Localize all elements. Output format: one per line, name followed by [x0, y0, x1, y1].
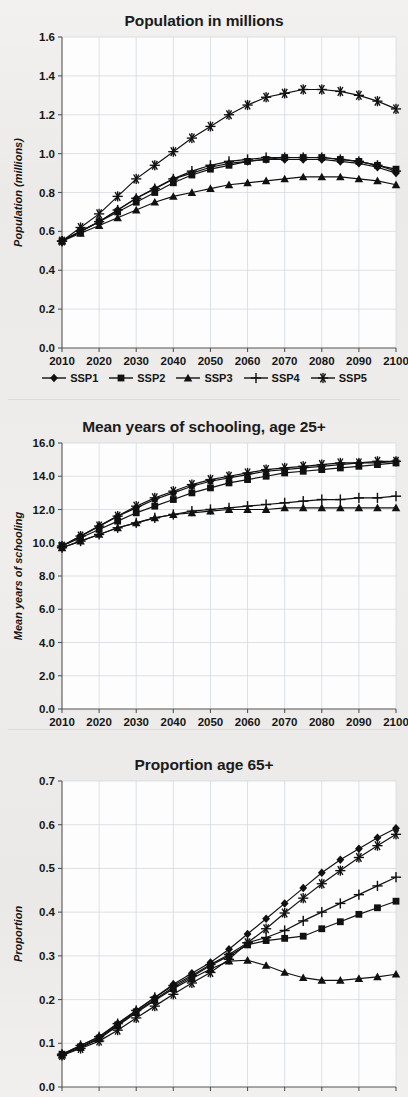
x-tick-label: 2060	[235, 716, 261, 728]
y-tick-label: 0.2	[39, 994, 55, 1006]
plot-area	[62, 781, 396, 1087]
chart-title-schooling: Mean years of schooling, age 25+	[0, 400, 408, 435]
legend-label: SSP1	[70, 372, 98, 384]
legend-marker-triangle-icon	[175, 371, 201, 385]
chart-panel-schooling: Mean years of schooling, age 25+ 0.02.04…	[0, 400, 408, 730]
x-tick-label: 2010	[49, 716, 75, 728]
marker-square	[318, 925, 325, 932]
y-tick-label: 6.0	[39, 603, 55, 615]
marker-plus	[250, 373, 260, 383]
marker-square	[207, 485, 214, 492]
y-tick-label: 1.2	[39, 109, 55, 121]
y-tick-label: 0.6	[39, 225, 55, 237]
x-tick-label: 2080	[309, 716, 335, 728]
marker-diamond	[50, 374, 58, 383]
chart-title-proportion: Proportion age 65+	[0, 730, 408, 773]
legend-marker-asterisk-icon	[310, 371, 336, 385]
y-tick-label: 0.2	[39, 303, 55, 315]
x-tick-label: 2040	[161, 716, 187, 728]
y-tick-label: 1.0	[39, 148, 55, 160]
chart-canvas-proportion: 0.00.10.20.30.40.50.60.7Proportion	[0, 773, 408, 1095]
legend-item-ssp1[interactable]: SSP1	[41, 371, 98, 385]
y-tick-label: 0.8	[39, 187, 56, 199]
legend-item-ssp5[interactable]: SSP5	[310, 371, 367, 385]
marker-square	[300, 933, 307, 940]
y-tick-label: 14.0	[33, 470, 55, 482]
y-tick-label: 0.4	[39, 906, 56, 918]
chart-title-population: Population in millions	[0, 0, 408, 29]
y-tick-label: 0.0	[39, 703, 55, 715]
y-tick-label: 16.0	[33, 437, 55, 449]
chart-svg-population: 0.00.20.40.60.81.01.21.41.62010202020302…	[0, 29, 408, 374]
legend-item-ssp4[interactable]: SSP4	[243, 371, 300, 385]
legend-marker-plus-icon	[243, 371, 269, 385]
marker-square	[188, 490, 195, 497]
y-axis-title: Mean years of schooling	[12, 512, 24, 641]
marker-square	[337, 918, 344, 925]
chart-panel-population: Population in millions 0.00.20.40.60.81.…	[0, 0, 408, 400]
chart-canvas-population: 0.00.20.40.60.81.01.21.41.62010202020302…	[0, 29, 408, 374]
marker-square	[151, 503, 158, 510]
legend-marker-square-icon	[108, 371, 134, 385]
legend-label: SSP3	[204, 372, 232, 384]
y-tick-label: 0.7	[39, 775, 55, 787]
marker-square	[170, 496, 177, 503]
y-tick-label: 10.0	[33, 537, 55, 549]
x-tick-label: 2020	[86, 716, 112, 728]
marker-square	[355, 911, 362, 918]
x-tick-label: 2070	[272, 716, 298, 728]
y-tick-label: 0.0	[39, 1081, 55, 1093]
legend-item-ssp3[interactable]: SSP3	[175, 371, 232, 385]
chart-svg-schooling: 0.02.04.06.08.010.012.014.016.0201020202…	[0, 435, 408, 735]
y-tick-label: 1.4	[39, 70, 56, 82]
marker-asterisk	[318, 373, 328, 383]
y-tick-label: 0.3	[39, 950, 55, 962]
marker-square	[374, 904, 381, 911]
y-tick-label: 0.1	[39, 1037, 56, 1049]
chart-canvas-schooling: 0.02.04.06.08.010.012.014.016.0201020202…	[0, 435, 408, 735]
marker-square	[393, 898, 400, 905]
legend-label: SSP5	[339, 372, 367, 384]
x-tick-label: 2050	[198, 716, 224, 728]
x-tick-label: 2090	[346, 716, 372, 728]
marker-square	[118, 375, 125, 382]
y-tick-label: 12.0	[33, 504, 55, 516]
y-tick-label: 0.6	[39, 819, 55, 831]
marker-square	[281, 935, 288, 942]
legend-marker-diamond-icon	[41, 371, 67, 385]
x-tick-label: 2100	[383, 716, 408, 728]
legend-item-ssp2[interactable]: SSP2	[108, 371, 165, 385]
y-tick-label: 0.4	[39, 264, 56, 276]
figure-panels: Population in millions 0.00.20.40.60.81.…	[0, 0, 408, 1097]
y-tick-label: 4.0	[39, 637, 55, 649]
y-tick-label: 0.5	[39, 862, 56, 874]
y-tick-label: 0.0	[39, 342, 55, 354]
legend-label: SSP2	[137, 372, 165, 384]
chart-panel-proportion: Proportion age 65+ 0.00.10.20.30.40.50.6…	[0, 730, 408, 1097]
legend: SSP1SSP2SSP3SSP4SSP5	[0, 366, 408, 390]
y-axis-title: Proportion	[12, 906, 24, 962]
y-axis-title: Population (millions)	[12, 138, 24, 247]
y-tick-label: 2.0	[39, 670, 55, 682]
y-tick-label: 8.0	[39, 570, 55, 582]
legend-label: SSP4	[272, 372, 300, 384]
x-tick-label: 2030	[123, 716, 149, 728]
y-tick-label: 1.6	[39, 31, 55, 43]
chart-svg-proportion-65plus: 0.00.10.20.30.40.50.60.7Proportion	[0, 773, 408, 1095]
